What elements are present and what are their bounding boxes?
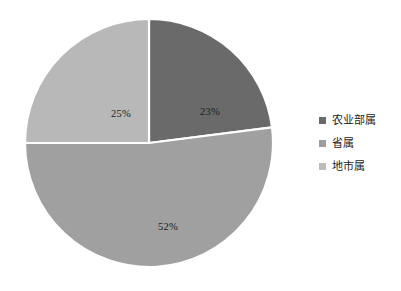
legend-square-marker-icon (319, 163, 326, 170)
slice-value-label-dishishu: 52% (158, 221, 178, 232)
legend-item-dishishu[interactable]: 地市属 (319, 155, 399, 178)
pie-svg (24, 18, 274, 268)
pie-slice[interactable] (149, 19, 272, 143)
slice-value-label-shengshu: 25% (111, 108, 131, 119)
pie-slice[interactable] (25, 127, 273, 267)
legend-label: 地市属 (332, 161, 365, 172)
legend-square-marker-icon (319, 117, 326, 124)
pie-chart-canvas: 23% 25% 52% (24, 18, 274, 268)
legend-label: 农业部属 (332, 115, 376, 126)
slice-value-label-nongyebushu: 23% (200, 106, 220, 117)
legend-label: 省属 (332, 138, 354, 149)
legend-item-nongyebushu[interactable]: 农业部属 (319, 109, 399, 132)
legend-square-marker-icon (319, 140, 326, 147)
legend-item-shengshu[interactable]: 省属 (319, 132, 399, 155)
chart-legend: 农业部属 省属 地市属 (319, 109, 399, 178)
pie-slice[interactable] (25, 19, 149, 143)
pie-chart-figure: 23% 25% 52% 农业部属 省属 地市属 (0, 0, 401, 291)
pie-slice-group (25, 19, 273, 267)
